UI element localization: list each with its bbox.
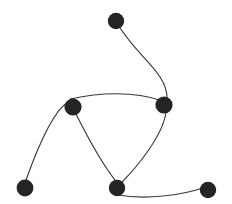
graph-figure <box>0 0 232 204</box>
graph-node[interactable] <box>17 180 34 197</box>
graph-canvas <box>0 0 232 204</box>
graph-node[interactable] <box>64 98 81 115</box>
graph-node[interactable] <box>155 96 172 113</box>
graph-node[interactable] <box>109 180 125 196</box>
canvas-background <box>0 0 232 204</box>
graph-node[interactable] <box>108 13 124 29</box>
graph-node[interactable] <box>200 182 216 198</box>
